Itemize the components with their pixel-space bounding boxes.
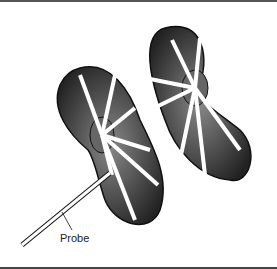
probe-label: Probe <box>60 232 89 244</box>
kidney-illustration <box>0 0 277 269</box>
right-kidney <box>145 27 251 181</box>
